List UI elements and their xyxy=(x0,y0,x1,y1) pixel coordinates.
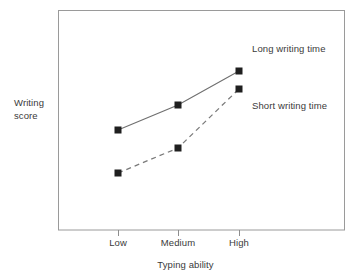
data-point-marker xyxy=(175,145,182,152)
x-tick-label-medium: Medium xyxy=(148,237,208,250)
chart-figure: Writingscore Low Medium High Typing abil… xyxy=(0,0,353,280)
annotation-long-writing-time: Long writing time xyxy=(252,43,326,56)
x-tick-label-high: High xyxy=(209,237,269,250)
data-point-marker xyxy=(175,102,182,109)
data-point-marker xyxy=(115,170,122,177)
x-tick-label-low: Low xyxy=(88,237,148,250)
y-axis-label: Writingscore xyxy=(14,97,44,122)
data-point-marker xyxy=(236,68,243,75)
x-axis-label: Typing ability xyxy=(58,259,313,272)
annotation-short-writing-time: Short writing time xyxy=(252,100,327,113)
y-axis-label-line1: Writing xyxy=(14,97,44,108)
y-axis-label-line2: score xyxy=(14,110,38,121)
data-point-marker xyxy=(236,86,243,93)
data-point-marker xyxy=(115,127,122,134)
x-axis-ticks xyxy=(119,230,240,236)
